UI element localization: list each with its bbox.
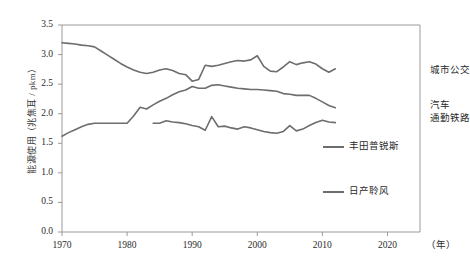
y-tick-label: 3.5 <box>23 20 53 30</box>
x-axis-unit-label: （年） <box>426 241 456 251</box>
y-tick-label: 3.0 <box>23 50 53 60</box>
y-tick-label: 0.5 <box>23 197 53 207</box>
legend-item[interactable]: 日产聆风 <box>323 187 389 197</box>
series-line-0 <box>62 43 335 81</box>
series-annotation: 城市公交 <box>430 66 470 76</box>
x-tick-label: 1970 <box>39 241 85 251</box>
x-tick-label: 2000 <box>234 241 280 251</box>
y-tick-label: 2.5 <box>23 79 53 89</box>
legend-item-label: 日产聆风 <box>349 187 389 197</box>
x-tick-label: 1990 <box>169 241 215 251</box>
y-tick-label: 2.0 <box>23 109 53 119</box>
data-curves <box>62 43 335 136</box>
x-tick-label: 1980 <box>104 241 150 251</box>
legend-item[interactable]: 丰田普锐斯 <box>323 142 399 152</box>
axis-ticks <box>58 25 387 236</box>
x-tick-label: 2020 <box>364 241 410 251</box>
series-annotation: 通勤铁路 <box>430 114 470 124</box>
y-tick-label: 1.5 <box>23 138 53 148</box>
legend-line-swatch <box>323 191 344 193</box>
series-line-2 <box>153 117 335 134</box>
legend-item-label: 丰田普锐斯 <box>349 142 399 152</box>
y-tick-label: 0.0 <box>23 227 53 237</box>
x-tick-label: 2010 <box>299 241 345 251</box>
y-tick-label: 1.0 <box>23 168 53 178</box>
series-annotation: 汽车 <box>430 101 450 111</box>
legend-line-swatch <box>323 146 344 148</box>
